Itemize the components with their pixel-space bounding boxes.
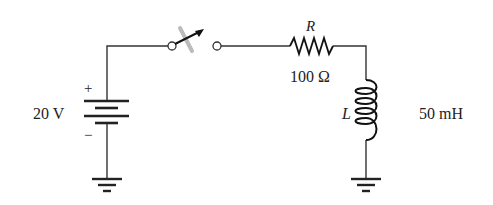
switch-arrow-icon (195, 29, 204, 37)
positive-terminal-label: + (84, 80, 92, 96)
inductor-symbol-label: L (341, 105, 351, 122)
wire-source-to-switch (107, 46, 168, 100)
resistor-icon (290, 38, 333, 54)
inductor-value-label: 50 mH (419, 105, 463, 122)
resistor-value-label: 100 Ω (290, 68, 330, 85)
inductor-icon (356, 80, 377, 140)
resistor-symbol-label: R (305, 18, 315, 34)
source-voltage-label: 20 V (33, 105, 65, 122)
wires (107, 46, 366, 178)
ground-icon (92, 179, 122, 191)
switch-icon (168, 28, 221, 51)
negative-terminal-label: − (84, 127, 92, 143)
circuit-diagram: + − 20 V R 100 Ω L 50 mH (0, 0, 493, 205)
ground-icon (351, 179, 381, 191)
wire-resistor-to-inductor (333, 46, 366, 80)
battery-icon (84, 101, 129, 123)
